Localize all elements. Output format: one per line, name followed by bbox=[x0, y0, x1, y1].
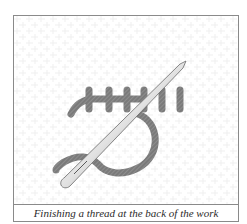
illustration bbox=[14, 16, 238, 205]
figure-frame: Finishing a thread at the back of the wo… bbox=[13, 15, 239, 222]
needle-thread-illustration bbox=[14, 16, 238, 204]
figure-caption: Finishing a thread at the back of the wo… bbox=[14, 205, 238, 221]
